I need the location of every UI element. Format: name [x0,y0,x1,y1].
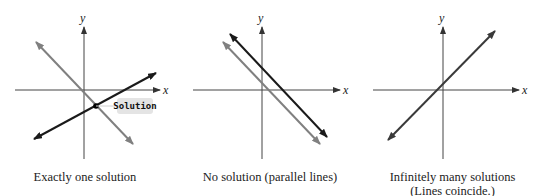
diagram-canvas: x y Solution x y x y [0,0,541,196]
panel-no-solution: x y [193,11,349,159]
panel-one-solution: x y Solution [15,11,169,159]
y-axis-label: y [257,11,264,25]
y-axis-label: y [79,11,86,25]
panel-infinite-solutions: x y [373,11,528,159]
caption-no-solution: No solution (parallel lines) [195,170,345,184]
caption-line-2: (Lines coincide.) [380,184,525,196]
caption-line-1: Infinitely many solutions [380,170,525,184]
coincident-line [388,31,495,140]
caption-one-solution: Exactly one solution [20,170,150,184]
x-axis-label: x [521,83,528,97]
x-axis-label: x [162,83,169,97]
y-axis-label: y [438,11,445,25]
dark-line [230,34,327,137]
gray-line [223,42,320,144]
solution-callout-label: Solution [113,101,156,111]
x-axis-label: x [342,83,349,97]
caption-infinite-solutions: Infinitely many solutions (Lines coincid… [380,170,525,196]
